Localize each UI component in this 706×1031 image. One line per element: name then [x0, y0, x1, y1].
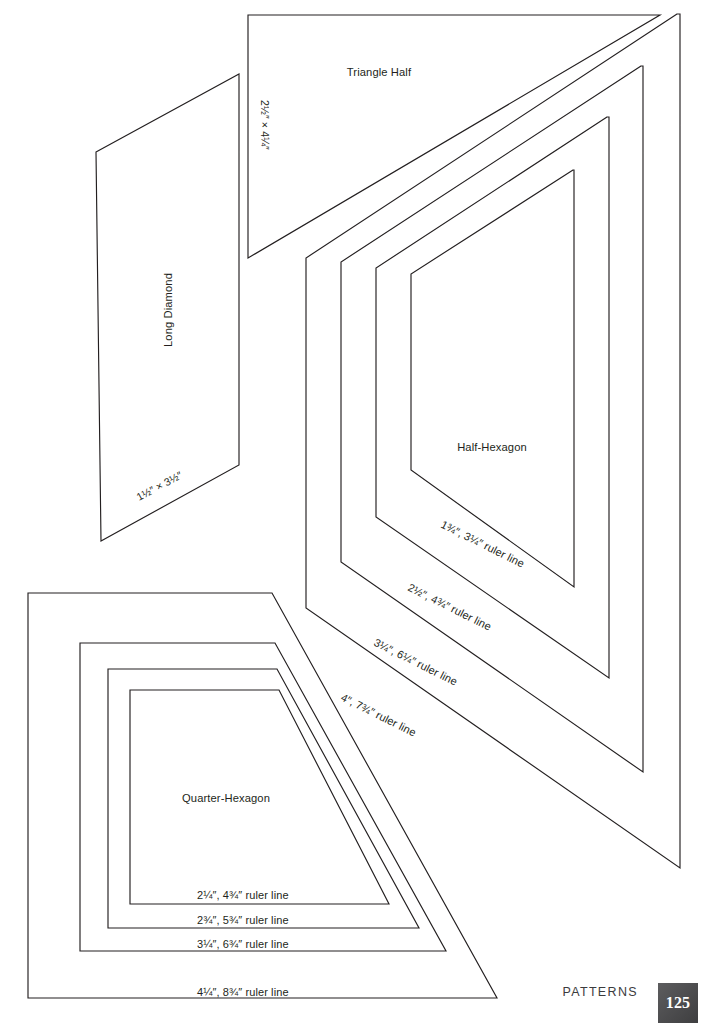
half-hexagon-ruler-line-4: 4″, 7¾″ ruler line — [339, 691, 418, 738]
page-number: 125 — [666, 994, 691, 1012]
half-hexagon-outline-1[interactable] — [411, 170, 574, 587]
half-hexagon-outline-3[interactable] — [341, 66, 643, 772]
quarter-hexagon-ruler-line-1: 2¼″, 4¾″ ruler line — [197, 889, 289, 901]
half-hexagon-label: Half-Hexagon — [457, 441, 527, 453]
long-diamond-label: Long Diamond — [162, 273, 174, 347]
half-hexagon-ruler-line-3: 3¼″, 6¼″ ruler line — [372, 636, 459, 688]
triangle-half-dimension-label: 2½″ × 4¼″ — [259, 100, 271, 150]
quarter-hexagon-ruler-line-3: 3¼″, 6¾″ ruler line — [197, 938, 289, 950]
triangle-half-label: Triangle Half — [347, 66, 412, 78]
quarter-hexagon-label: Quarter-Hexagon — [182, 792, 270, 804]
long-diamond-dimension-label: 1½″ × 3½″ — [134, 469, 184, 503]
half-hexagon-group: Half-Hexagon 1¾″, 3¼″ ruler line 2½″, 4¾… — [306, 14, 680, 868]
quarter-hexagon-group: Quarter-Hexagon 2¼″, 4¾″ ruler line 2¾″,… — [28, 593, 497, 998]
footer-section-label: PATTERNS — [562, 985, 638, 999]
quarter-hexagon-ruler-line-2: 2¾″, 5¾″ ruler line — [197, 914, 289, 926]
pattern-templates-canvas: Half-Hexagon 1¾″, 3¼″ ruler line 2½″, 4¾… — [0, 0, 706, 1031]
page-number-badge: 125 — [658, 983, 698, 1023]
triangle-half-group: Triangle Half 2½″ × 4¼″ — [248, 15, 660, 258]
triangle-half-outline[interactable] — [248, 15, 660, 258]
pattern-page: Half-Hexagon 1¾″, 3¼″ ruler line 2½″, 4¾… — [0, 0, 706, 1031]
page-footer: PATTERNS 125 — [0, 961, 706, 1031]
long-diamond-group: Long Diamond 1½″ × 3½″ — [96, 74, 239, 541]
